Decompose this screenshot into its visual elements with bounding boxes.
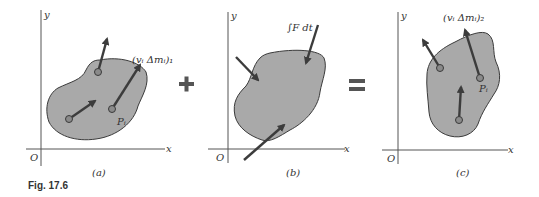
- origin-label: O: [216, 152, 224, 163]
- rigid-body-blob: [427, 32, 500, 136]
- particle-pi: [477, 75, 484, 82]
- point-label: Pᵢ: [478, 83, 488, 94]
- y-axis-label: y: [230, 10, 237, 21]
- panel-label-c: (c): [456, 167, 470, 178]
- x-axis-label: x: [344, 143, 350, 154]
- panel-label-b: (b): [286, 167, 300, 178]
- y-axis-label: y: [400, 10, 407, 21]
- figure-caption: Fig. 17.6: [28, 180, 68, 191]
- impulse-label: ∫F dt: [287, 22, 314, 33]
- panel-b: y x O ∫F dt (b): [208, 10, 350, 178]
- momentum-label-1: (vᵢ Δmᵢ)₁: [132, 54, 173, 65]
- equals-operator: [349, 79, 365, 91]
- origin-label: O: [387, 153, 395, 164]
- x-axis-label: x: [508, 144, 514, 155]
- y-axis-label: y: [43, 9, 50, 20]
- figure-17-6: y x O (vᵢ Δmᵢ)₁ Pᵢ (a) Fig. 17.6 y x O ∫…: [0, 0, 539, 197]
- point-label: Pᵢ: [116, 116, 126, 127]
- plus-operator: [179, 77, 194, 92]
- panel-a: y x O (vᵢ Δmᵢ)₁ Pᵢ (a) Fig. 17.6: [26, 9, 173, 191]
- particle: [66, 116, 73, 123]
- panel-label-a: (a): [92, 167, 106, 178]
- origin-label: O: [30, 152, 38, 163]
- particle: [456, 117, 463, 124]
- particle: [437, 65, 444, 72]
- x-axis-label: x: [166, 143, 172, 154]
- particle: [95, 69, 102, 76]
- particle-pi: [109, 106, 116, 113]
- panel-c: y x O (vᵢ Δmᵢ)₂ Pᵢ (c): [382, 10, 514, 178]
- momentum-label-2: (vᵢ Δmᵢ)₂: [443, 12, 484, 23]
